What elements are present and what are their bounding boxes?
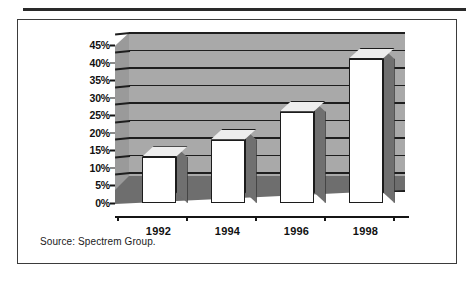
y-axis-tick-label: 35%	[64, 75, 110, 85]
y-axis-tick-label: 40%	[64, 58, 110, 68]
bar-front-face	[211, 140, 245, 203]
bar-front-face	[349, 59, 383, 203]
bar-front-face	[142, 157, 176, 203]
bar-side-face	[245, 129, 257, 203]
x-axis-tick-label: 1996	[274, 225, 320, 237]
x-axis-tickmark	[324, 216, 326, 221]
y-axis-tick-label: 25%	[64, 110, 110, 120]
x-axis-tick-label: 1994	[205, 225, 251, 237]
figure-frame: 0%5%10%15%20%25%30%35%40%45% 19921994199…	[17, 19, 457, 264]
x-axis-tickmark	[255, 216, 257, 221]
bar-column	[211, 129, 257, 203]
y-axis-tick-label: 15%	[64, 145, 110, 155]
y-axis-labels: 0%5%10%15%20%25%30%35%40%45%	[58, 20, 110, 225]
plot-area-3d	[115, 32, 405, 204]
x-axis-tickmark	[117, 216, 119, 221]
y-axis-tick-label: 45%	[64, 40, 110, 50]
x-axis-tickmark	[393, 216, 395, 221]
top-divider-rule	[23, 8, 466, 11]
source-caption: Source: Spectrem Group.	[40, 236, 156, 247]
y-axis-tick-label: 5%	[64, 180, 110, 190]
figure-page: 0%5%10%15%20%25%30%35%40%45% 19921994199…	[0, 0, 476, 282]
x-axis-tick-label: 1998	[343, 225, 389, 237]
y-axis-tick-label: 10%	[64, 163, 110, 173]
bar-chart: 0%5%10%15%20%25%30%35%40%45% 19921994199…	[18, 20, 458, 225]
bar-column	[349, 48, 395, 203]
y-axis-tick-label: 30%	[64, 93, 110, 103]
bar-column	[142, 146, 188, 203]
x-axis-tickmark	[186, 216, 188, 221]
bar-front-face	[280, 112, 314, 203]
bar-side-face	[383, 48, 395, 203]
y-axis-tick-label: 20%	[64, 128, 110, 138]
y-axis-tick-label: 0%	[64, 198, 110, 208]
gridline	[129, 32, 405, 34]
x-axis-line	[115, 216, 409, 218]
bar-column	[280, 101, 326, 203]
bar-side-face	[314, 101, 326, 203]
